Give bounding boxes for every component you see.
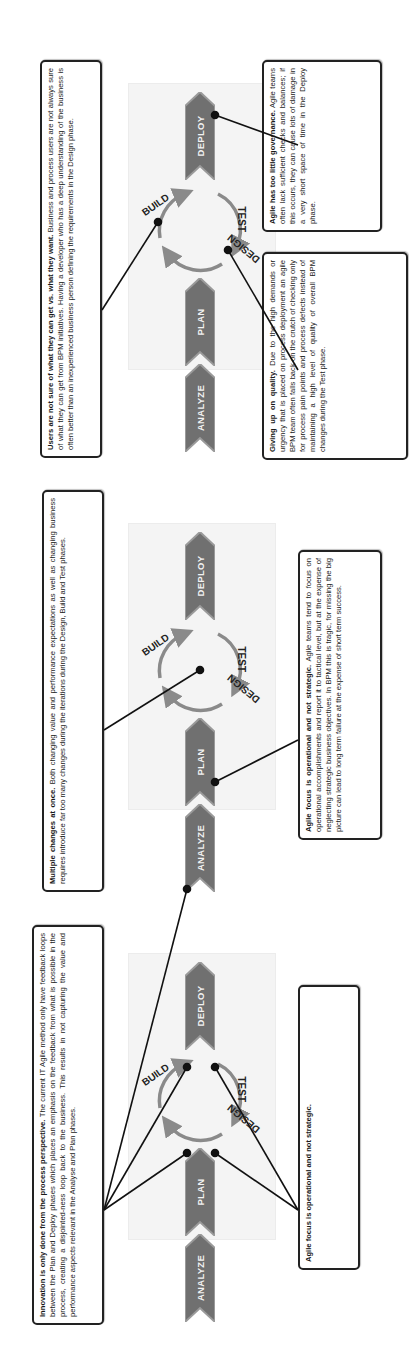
- cycle-label-test: TEST: [236, 646, 247, 672]
- cycle-arrows: [0, 0, 409, 1370]
- agile-bpm-pitfalls-diagram: Innovation is only done from the process…: [0, 0, 409, 1370]
- cycle-label-test: TEST: [236, 206, 247, 232]
- cycle-p3: [159, 194, 240, 270]
- cycle-label-test: TEST: [236, 1076, 247, 1102]
- cycle-p1: [159, 1064, 240, 1140]
- connectors: [102, 112, 298, 1211]
